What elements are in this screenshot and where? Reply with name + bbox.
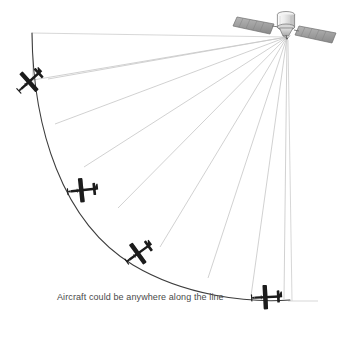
signal-ray-6 <box>160 37 287 247</box>
aircraft-4 <box>250 284 282 310</box>
signal-ray-7 <box>208 37 287 278</box>
diagram-canvas <box>0 0 344 337</box>
solar-panel-right-icon <box>295 26 336 43</box>
signal-rays <box>33 37 287 299</box>
diagram-caption: Aircraft could be anywhere along the lin… <box>57 292 224 302</box>
frame-right-line <box>288 40 292 301</box>
frame-top-line <box>32 33 286 37</box>
solar-panel-left-icon <box>233 17 274 34</box>
aircraft-3 <box>119 234 158 272</box>
aircraft-1 <box>10 61 49 100</box>
signal-ray-8 <box>251 37 287 296</box>
satellite-body-icon <box>277 12 294 31</box>
signal-ray-9 <box>284 37 287 299</box>
